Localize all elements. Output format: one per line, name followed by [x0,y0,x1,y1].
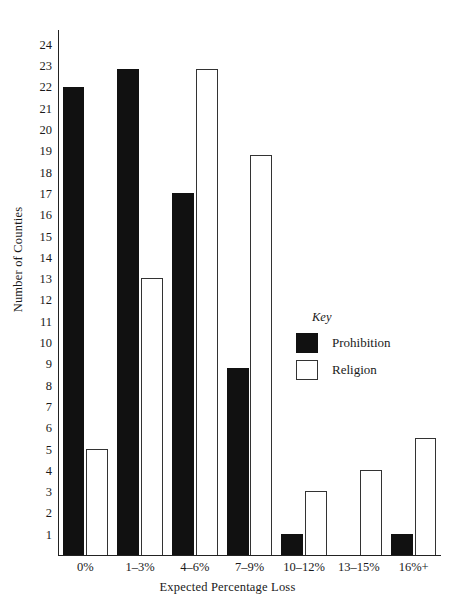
y-tick-21: 21 [30,101,52,116]
x-tick-6: 16%+ [399,560,429,575]
bar-religion-1 [141,278,163,555]
y-tick-11: 11 [30,314,52,329]
bar-prohibition-4 [281,534,303,555]
bar-religion-4 [305,491,327,555]
legend-entries: ProhibitionReligion [296,333,446,380]
y-tick-4: 4 [30,463,52,478]
y-tick-10: 10 [30,336,52,351]
x-tick-5: 13–15% [338,560,380,575]
y-tick-3: 3 [30,485,52,500]
legend-label-prohibition: Prohibition [332,335,391,351]
y-tick-14: 14 [30,250,52,265]
bar-religion-6 [415,438,437,555]
legend-swatch-religion-icon [296,360,318,380]
y-tick-16: 16 [30,208,52,223]
y-tick-20: 20 [30,123,52,138]
bar-prohibition-2 [172,193,194,555]
y-tick-9: 9 [30,357,52,372]
y-tick-15: 15 [30,229,52,244]
y-axis-title: Number of Counties [11,180,26,340]
bar-chart-figure: Number of Counties Expected Percentage L… [0,0,455,606]
legend-item-religion: Religion [296,360,446,380]
plot-area: 123456789101112131415161718192021222324 … [58,30,441,556]
bar-prohibition-6 [391,534,413,555]
y-tick-17: 17 [30,186,52,201]
bar-religion-0 [86,449,108,555]
y-tick-1: 1 [30,527,52,542]
y-tick-12: 12 [30,293,52,308]
bar-prohibition-0 [63,87,85,556]
y-tick-6: 6 [30,421,52,436]
y-tick-18: 18 [30,165,52,180]
y-tick-2: 2 [30,506,52,521]
x-tick-3: 7–9% [235,560,264,575]
y-tick-22: 22 [30,80,52,95]
x-axis-line [58,555,441,556]
bar-religion-5 [360,470,382,555]
x-tick-4: 10–12% [283,560,325,575]
legend-label-religion: Religion [332,362,377,378]
legend-item-prohibition: Prohibition [296,333,446,353]
bar-religion-3 [250,155,272,555]
y-tick-7: 7 [30,399,52,414]
bar-religion-2 [196,69,218,555]
y-tick-24: 24 [30,37,52,52]
bar-prohibition-1 [117,69,139,555]
y-tick-13: 13 [30,272,52,287]
x-tick-1: 1–3% [125,560,154,575]
y-tick-19: 19 [30,144,52,159]
x-tick-0: 0% [77,560,94,575]
x-tick-2: 4–6% [180,560,209,575]
x-axis-title: Expected Percentage Loss [0,580,455,595]
legend-title: Key [312,310,446,325]
y-axis-line [58,30,59,556]
y-tick-5: 5 [30,442,52,457]
chart-legend: Key ProhibitionReligion [296,310,446,387]
y-tick-23: 23 [30,59,52,74]
bar-prohibition-3 [227,368,249,555]
y-tick-8: 8 [30,378,52,393]
legend-swatch-prohibition-icon [296,333,318,353]
